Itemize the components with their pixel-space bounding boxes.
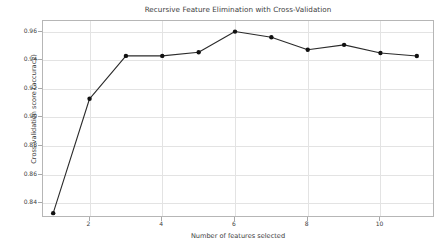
data-point-marker xyxy=(269,35,273,39)
x-tick-label: 8 xyxy=(297,221,317,227)
y-axis-label: Cross-validation score (accuracy) xyxy=(30,29,38,189)
x-tick-label: 2 xyxy=(79,221,99,227)
x-tick-label: 6 xyxy=(224,221,244,227)
x-tick-mark xyxy=(379,217,380,221)
chart-figure: Recursive Feature Elimination with Cross… xyxy=(0,0,444,247)
data-point-marker xyxy=(160,54,164,58)
y-tick-label: 0.90 xyxy=(11,113,37,119)
x-axis-label: Number of features selected xyxy=(42,232,434,240)
data-point-marker xyxy=(415,54,419,58)
data-point-marker xyxy=(87,97,91,101)
y-tick-label: 0.84 xyxy=(11,199,37,205)
plot-area xyxy=(42,20,434,217)
x-tick-label: 4 xyxy=(151,221,171,227)
data-point-marker xyxy=(342,43,346,47)
x-tick-label: 10 xyxy=(369,221,389,227)
y-tick-label: 0.86 xyxy=(11,171,37,177)
chart-title: Recursive Feature Elimination with Cross… xyxy=(42,5,434,14)
x-tick-mark xyxy=(234,217,235,221)
y-tick-label: 0.92 xyxy=(11,85,37,91)
x-tick-mark xyxy=(307,217,308,221)
y-tick-label: 0.96 xyxy=(11,28,37,34)
data-series-line xyxy=(43,21,434,217)
data-point-marker xyxy=(378,51,382,55)
data-point-marker xyxy=(306,48,310,52)
x-tick-mark xyxy=(89,217,90,221)
data-point-marker xyxy=(233,29,237,33)
data-point-marker xyxy=(51,211,55,215)
y-tick-label: 0.94 xyxy=(11,56,37,62)
data-point-marker xyxy=(124,54,128,58)
data-point-marker xyxy=(196,50,200,54)
x-tick-mark xyxy=(161,217,162,221)
y-tick-label: 0.88 xyxy=(11,142,37,148)
